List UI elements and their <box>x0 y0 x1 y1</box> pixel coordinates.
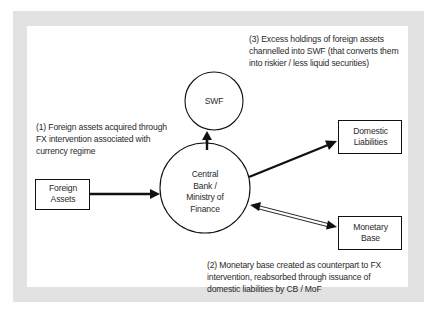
annotation-3: (3) Excess holdings of foreign assets ch… <box>249 33 398 69</box>
swf-label: SWF <box>194 96 234 107</box>
monetary-base-label: Monetary Base <box>339 222 402 244</box>
arrow-foreign-assets-to-central-bank <box>90 189 160 199</box>
annotation-1: (1) Foreign assets acquired through FX i… <box>36 121 167 157</box>
arrow-central-bank-monetary-base <box>250 202 337 230</box>
annotation-2: (2) Monetary base created as counterpart… <box>207 259 381 295</box>
arrow-central-bank-to-domestic-liabilities <box>249 141 337 178</box>
domestic-liabilities-label: Domestic Liabilities <box>339 126 402 148</box>
foreign-assets-label: Foreign Assets <box>36 183 90 205</box>
central-bank-label: Central Bank / Ministry of Finance <box>172 169 238 215</box>
